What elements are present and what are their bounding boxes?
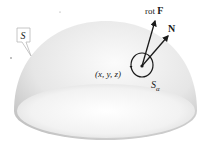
surface-label-callout: S xyxy=(17,28,31,56)
normal-label: N xyxy=(168,23,176,34)
curl-label: rot F xyxy=(145,5,163,16)
point-label: (x, y, z) xyxy=(95,69,121,79)
hemisphere-base xyxy=(17,84,195,138)
stray-dot xyxy=(10,57,11,58)
stray-dot xyxy=(60,12,61,13)
hemisphere-diagram: S rot F N (x, y, z) Sα xyxy=(0,0,210,150)
surface-label: S xyxy=(21,30,26,41)
point-marker xyxy=(140,64,143,67)
